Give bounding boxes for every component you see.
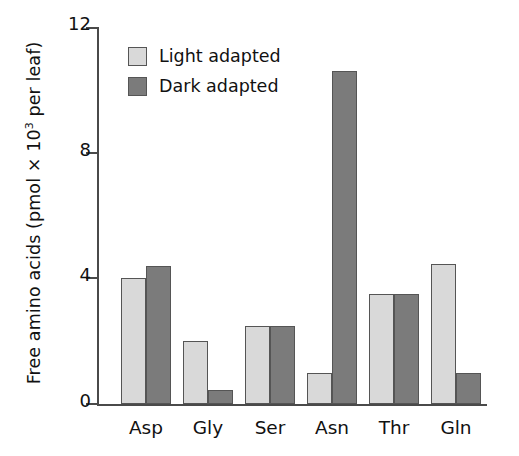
y-tick-label-4: 4 bbox=[80, 266, 91, 284]
bar-thr-light-adapted bbox=[369, 294, 394, 404]
y-axis-title-prefix: Free amino acids (pmol × 10 bbox=[24, 129, 44, 384]
bar-gly-light-adapted bbox=[183, 341, 208, 404]
bar-ser-dark-adapted bbox=[270, 326, 295, 405]
legend-entry-light-adapted: Light adapted bbox=[128, 44, 281, 68]
bar-asp-dark-adapted bbox=[146, 266, 171, 404]
bar-gly-dark-adapted bbox=[208, 390, 233, 404]
y-tick-label-8: 8 bbox=[80, 141, 91, 159]
bar-thr-dark-adapted bbox=[394, 294, 419, 404]
legend-swatch-light-adapted bbox=[128, 47, 147, 66]
chart-figure: Free amino acids (pmol × 103 per leaf) 0… bbox=[0, 0, 519, 456]
legend-label-dark-adapted: Dark adapted bbox=[159, 76, 279, 96]
legend-entry-dark-adapted: Dark adapted bbox=[128, 74, 281, 98]
bar-gln-dark-adapted bbox=[456, 373, 481, 404]
y-axis-title: Free amino acids (pmol × 103 per leaf) bbox=[24, 13, 44, 413]
bar-asn-dark-adapted bbox=[332, 71, 357, 404]
bar-asn-light-adapted bbox=[307, 373, 332, 404]
chart-legend: Light adapted Dark adapted bbox=[128, 44, 281, 104]
y-axis-title-exponent: 3 bbox=[23, 122, 36, 129]
legend-swatch-dark-adapted bbox=[128, 77, 147, 96]
legend-label-light-adapted: Light adapted bbox=[159, 46, 281, 66]
bar-gln-light-adapted bbox=[431, 264, 456, 404]
x-tick-label-gln: Gln bbox=[416, 417, 496, 438]
bar-asp-light-adapted bbox=[121, 278, 146, 404]
x-axis-line bbox=[97, 404, 487, 406]
y-tick-label-0: 0 bbox=[80, 392, 91, 410]
y-tick-label-12: 12 bbox=[68, 15, 91, 33]
y-axis-line bbox=[97, 27, 99, 404]
y-axis-title-suffix: per leaf) bbox=[24, 42, 44, 123]
bar-ser-light-adapted bbox=[245, 326, 270, 405]
